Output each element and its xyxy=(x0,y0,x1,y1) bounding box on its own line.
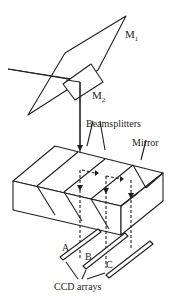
label-ccd-b: B xyxy=(85,251,92,262)
diagram-labels: M1 M2 Beamsplitters Mirror A B C CCD arr… xyxy=(0,0,174,304)
label-ccd-a: A xyxy=(62,242,70,253)
label-m1: M1 xyxy=(125,28,139,43)
label-beamsplitters: Beamsplitters xyxy=(86,118,141,129)
label-ccd-c: C xyxy=(106,259,113,270)
label-mirror: Mirror xyxy=(132,137,159,148)
label-m2: M2 xyxy=(92,89,106,104)
label-ccd-arrays: CCD arrays xyxy=(54,281,102,292)
